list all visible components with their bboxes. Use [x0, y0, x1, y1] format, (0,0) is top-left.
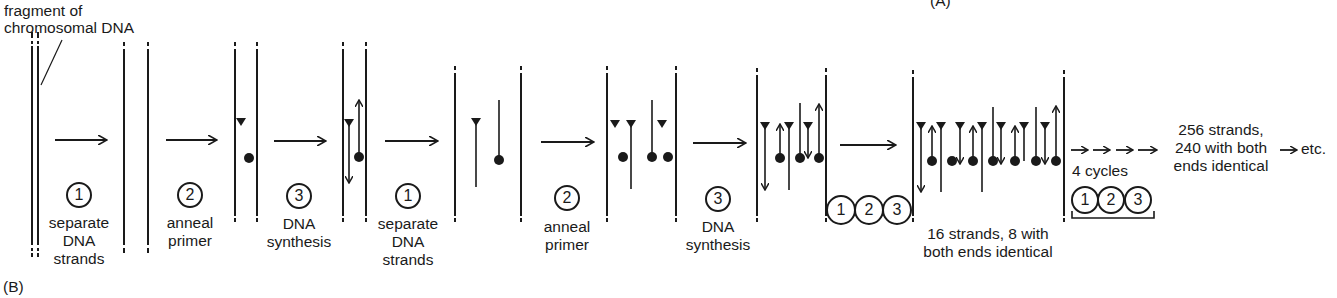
- strands-after-cycle-3: [913, 70, 1064, 222]
- synthesized-strands-cycle-2: [757, 68, 826, 222]
- step-label: DNA synthesis: [263, 215, 335, 251]
- step-number-circle: 1: [66, 182, 92, 208]
- result-caption: 256 strands, 240 with both ends identica…: [1162, 121, 1280, 175]
- step-number-circle: 2: [554, 185, 580, 211]
- step-label: separate DNA strands: [373, 215, 443, 269]
- cycle-step-circle: 2: [854, 195, 884, 225]
- etc-label: etc.: [1301, 140, 1326, 158]
- step-label: separate DNA strands: [44, 214, 114, 268]
- annealed-primers: [235, 42, 257, 222]
- cycle-step-circle: 2: [1097, 186, 1125, 214]
- step-number-circle: 3: [705, 186, 731, 212]
- step-label: DNA synthesis: [682, 218, 754, 254]
- step-number-circle: 1: [395, 183, 421, 209]
- cycle-step-circle: 3: [882, 195, 912, 225]
- separated-strands: [124, 42, 148, 253]
- cycle-step-circle: 3: [1124, 186, 1152, 214]
- step-label: anneal primer: [155, 214, 225, 250]
- cycle-step-circle: 1: [826, 195, 856, 225]
- pcr-diagram: [0, 0, 1337, 298]
- callout-line-1: fragment of: [4, 2, 82, 20]
- step-label: anneal primer: [532, 218, 602, 254]
- step-number-circle: 2: [177, 182, 203, 208]
- callout-line-2: chromosomal DNA: [4, 19, 134, 37]
- separated-strands-cycle-2: [455, 66, 521, 222]
- annealed-primers-cycle-2: [607, 66, 676, 222]
- cycle-3-caption: 16 strands, 8 with both ends identical: [908, 225, 1068, 261]
- four-cycles-label: 4 cycles: [1072, 162, 1128, 180]
- panel-label-b: (B): [3, 278, 24, 296]
- synthesized-strands-cycle-1: [343, 42, 366, 222]
- cycle-step-circle: 1: [1071, 186, 1099, 214]
- panel-label-a: (A): [930, 0, 951, 10]
- step-number-circle: 3: [286, 183, 312, 209]
